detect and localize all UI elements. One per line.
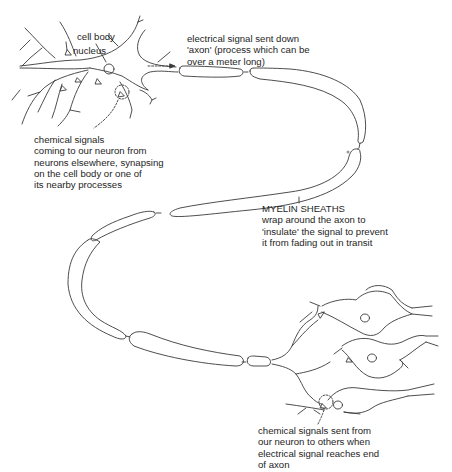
outgoing-line-3: electrical signal reaches end [258, 448, 379, 459]
myelin-sheath-4 [91, 211, 155, 241]
axon-terminals [272, 286, 438, 425]
incoming-line-3: neurons elsewhere, synapsing [34, 157, 164, 168]
incoming-line-5: its nearby processes [34, 179, 164, 190]
myelin-line-3: 'insulate' the signal to prevent [262, 226, 388, 237]
label-outgoing-chemical-signals: chemical signals sent from our neuron to… [258, 425, 379, 470]
label-myelin-sheaths: MYELIN SHEATHS wrap around the axon to '… [262, 203, 388, 248]
outgoing-line-2: our neuron to others when [258, 436, 379, 447]
label-nucleus: nucleus [73, 45, 106, 56]
myelin-line-4: it from fading out in transit [262, 237, 388, 248]
incoming-line-1: chemical signals [34, 134, 164, 145]
label-cell-body: cell body [77, 31, 115, 42]
axon-signal-line-3: over a meter long) [187, 56, 310, 67]
axon-signal-line-1: electrical signal sent down [187, 33, 310, 44]
myelin-sheath-7 [247, 356, 270, 366]
neuron-diagram: cell body nucleus electrical signal sent… [0, 0, 452, 472]
myelin-sheath-6 [129, 332, 243, 366]
outgoing-line-1: chemical signals sent from [258, 425, 379, 436]
label-axon-signal: electrical signal sent down 'axon' (proc… [187, 33, 310, 67]
myelin-line-1: MYELIN SHEATHS [262, 203, 388, 214]
myelin-sheath-2 [250, 68, 366, 143]
myelin-sheath-1 [179, 66, 243, 77]
incoming-line-4: on the cell body or one of [34, 168, 164, 179]
myelin-sheath-5 [68, 239, 126, 339]
myelin-line-2: wrap around the axon to [262, 214, 388, 225]
axon-signal-line-2: 'axon' (process which can be [187, 44, 310, 55]
incoming-line-2: coming to our neuron from [34, 145, 164, 156]
outgoing-line-4: of axon [258, 459, 379, 470]
label-incoming-chemical-signals: chemical signals coming to our neuron fr… [34, 134, 164, 190]
